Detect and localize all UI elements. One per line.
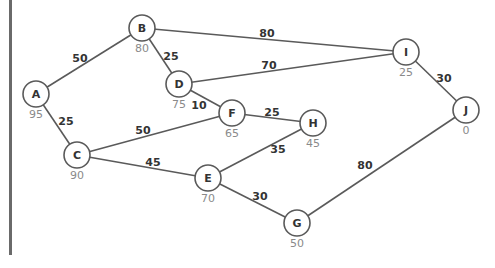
node-h: H45	[300, 110, 326, 150]
weighted-graph: 50252580701025504535308030 A95B80C90D75E…	[0, 0, 495, 268]
node-heuristic-value: 70	[201, 192, 215, 205]
edge-a-b	[36, 28, 142, 94]
node-heuristic-value: 45	[306, 137, 320, 150]
node-label: E	[204, 172, 212, 185]
edge-weight-a-b: 50	[72, 52, 88, 65]
node-heuristic-value: 80	[135, 42, 149, 55]
edge-weight-d-i: 70	[261, 59, 277, 72]
edge-weight-e-g: 30	[252, 190, 268, 203]
node-e: E70	[195, 165, 221, 205]
node-d: D75	[166, 71, 192, 111]
edge-weight-b-d: 25	[163, 50, 178, 63]
edge-weight-d-f: 10	[191, 99, 207, 112]
node-g: G50	[284, 210, 310, 250]
edge-c-e	[77, 155, 208, 178]
edge-weight-i-j: 30	[436, 72, 452, 85]
edge-weight-e-h: 35	[270, 143, 285, 156]
node-heuristic-value: 90	[70, 169, 84, 182]
node-label: F	[228, 107, 236, 120]
node-heuristic-value: 0	[463, 124, 470, 137]
node-label: D	[174, 78, 183, 91]
node-heuristic-value: 95	[29, 108, 43, 121]
edge-weight-f-h: 25	[264, 106, 279, 119]
node-heuristic-value: 65	[225, 127, 239, 140]
edge-weight-c-f: 50	[135, 124, 151, 137]
node-heuristic-value: 50	[290, 237, 304, 250]
node-i: I25	[393, 39, 419, 79]
edge-e-h	[208, 123, 313, 178]
node-label: G	[292, 217, 301, 230]
node-a: A95	[23, 81, 49, 121]
edge-weight-g-j: 80	[357, 159, 373, 172]
edge-d-i	[179, 52, 406, 84]
node-label: A	[32, 88, 41, 101]
node-b: B80	[129, 15, 155, 55]
node-label: I	[404, 46, 408, 59]
edge-weight-c-e: 45	[145, 156, 160, 169]
node-heuristic-value: 25	[399, 66, 413, 79]
node-label: H	[308, 117, 317, 130]
edge-weight-a-c: 25	[58, 115, 73, 128]
node-label: C	[73, 149, 81, 162]
node-f: F65	[219, 100, 245, 140]
node-c: C90	[64, 142, 90, 182]
edge-weight-b-i: 80	[259, 27, 275, 40]
node-heuristic-value: 75	[172, 98, 186, 111]
node-label: J	[463, 104, 468, 117]
node-label: B	[138, 22, 146, 35]
edge-c-f	[77, 113, 232, 155]
nodes-layer: A95B80C90D75E70F65G50H45I25J0	[23, 15, 479, 250]
node-j: J0	[453, 97, 479, 137]
